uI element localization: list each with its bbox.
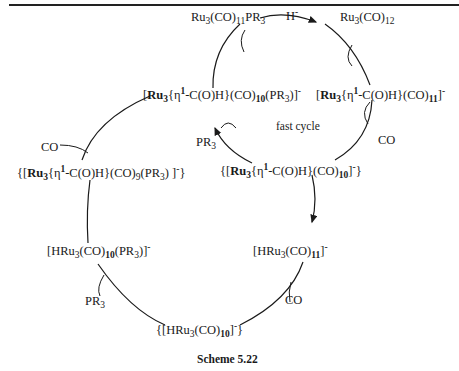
scheme-caption: Scheme 5.22 [197, 353, 258, 365]
species-ru3co11pr3: Ru3(CO)11PR3 [191, 10, 265, 24]
arc-right [335, 100, 372, 160]
reagent-co-add: CO [285, 293, 302, 307]
arc-top-right [325, 24, 370, 85]
reagent-co-fast: CO [378, 133, 395, 147]
species-formyl-co11: [Ru3{η1-C(O)H}(CO)11]- [316, 88, 445, 102]
species-ru3co12: Ru3(CO)12 [340, 10, 395, 24]
species-hru3co11: [HRu3(CO)11]- [253, 244, 328, 258]
cycle-arrows [0, 0, 459, 371]
hook-pr3-fast [221, 123, 236, 128]
arrow-down [312, 175, 315, 222]
hook-pr3-slow [99, 275, 104, 296]
reagent-pr3-slow: PR3 [85, 294, 105, 308]
species-hru3co10-pr3: [HRu3(CO)10(PR3)]- [47, 244, 150, 258]
center-label-fast-cycle: fast cycle [276, 119, 320, 133]
reagent-co-slow: CO [41, 140, 58, 154]
arc-slow-left [87, 180, 90, 243]
arc-slow-bottom-left [98, 264, 165, 325]
species-formyl-co9-pr3: {[Ru3{η1-C(O)H}(CO)9(PR3) ]-} [17, 166, 185, 180]
species-hru3co10: {[HRu3(CO)10]-} [156, 323, 243, 337]
hook-ru3co12 [348, 45, 352, 66]
arc-bottom-left [215, 128, 252, 163]
reagent-pr3-fast: PR3 [196, 135, 216, 149]
hook-co-slow [60, 145, 88, 153]
arc-left [213, 24, 240, 88]
species-formyl-co10-pr3: [Ru3{η1-C(O)H}(CO)10(PR3)]- [143, 88, 301, 102]
hook-co-fast [364, 102, 370, 124]
reagent-hydride: H- [286, 9, 298, 23]
hook-pr3-top [241, 30, 245, 52]
species-formyl-co10: {[Ru3{η1-C(O)H}(CO)10]-} [220, 164, 362, 178]
arc-slow-top [82, 96, 150, 160]
